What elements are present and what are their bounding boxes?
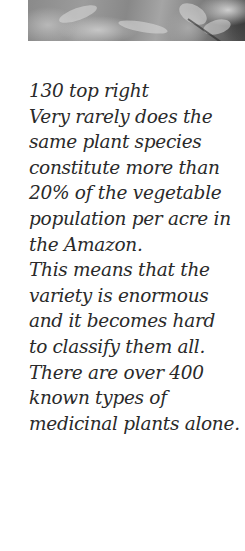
caption-line: constitute more than — [29, 155, 245, 181]
caption-line: 20% of the vegetable — [29, 180, 245, 206]
caption-line: population per acre in — [29, 206, 245, 232]
caption-line: the Amazon. — [29, 232, 245, 258]
leaf-shape — [118, 18, 169, 37]
caption-line: known types of — [29, 385, 245, 411]
caption-line: There are over 400 — [29, 360, 245, 386]
caption-line: Very rarely does the — [29, 104, 245, 130]
caption-line: This means that the — [29, 257, 245, 283]
caption-line: same plant species — [29, 129, 245, 155]
plant-photo — [28, 0, 245, 41]
caption-line: to classify them all. — [29, 334, 245, 360]
caption-text: 130 top right Very rarely does the same … — [29, 78, 245, 436]
caption-line: 130 top right — [29, 78, 245, 104]
caption-line: variety is enormous — [29, 283, 245, 309]
caption-line: and it becomes hard — [29, 308, 245, 334]
caption-line: medicinal plants alone. — [29, 411, 245, 437]
leaf-shape — [57, 2, 99, 27]
